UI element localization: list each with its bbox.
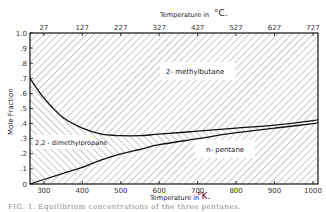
chart-svg: 0.1.2.3.4.5.6.7.8.91.0 30040050060070080… <box>0 0 326 212</box>
y-tick-label: .9 <box>20 45 27 53</box>
region-label-2-2-dimethylpropane: 2,2 - dimethylpropane <box>35 139 107 147</box>
x-tick-label: 1000 <box>304 187 322 195</box>
x2-axis-label: Temperature in <box>159 11 209 19</box>
x-tick-label: 900 <box>268 187 281 195</box>
y-tick-label: .4 <box>20 120 27 128</box>
y-axis-label: Mole Fraction <box>7 88 15 135</box>
x2-tick-label: 227 <box>114 24 127 32</box>
y-tick-label: 1.0 <box>16 30 27 38</box>
x2-tick-label: 727 <box>306 24 319 32</box>
x2-tick-label: 527 <box>229 24 242 32</box>
y-tick-label: .3 <box>20 135 27 143</box>
x-axis-label: Temperature in <box>149 194 199 202</box>
plot-area <box>30 33 318 184</box>
y-tick-label: .8 <box>20 60 27 68</box>
figure-caption: FIG. 1. Equilibrium concentrations of th… <box>8 203 241 211</box>
x2-tick-label: 27 <box>39 24 48 32</box>
y-tick-label: .1 <box>20 165 27 173</box>
x2-tick-label: 327 <box>153 24 166 32</box>
y-tick-label: .2 <box>20 150 27 158</box>
x2-tick-label: 127 <box>76 24 89 32</box>
x-tick-label: 400 <box>76 187 89 195</box>
x-tick-label: 500 <box>114 187 127 195</box>
x2-axis-unit: °C. <box>214 8 228 18</box>
y-tick-label: .5 <box>20 105 27 113</box>
x2-tick-label: 627 <box>268 24 281 32</box>
x-tick-label: 800 <box>229 187 242 195</box>
region-label-n-pentane: n- pentane <box>206 146 244 154</box>
region-label-2-methylbutane: 2- methylbutane <box>166 68 224 76</box>
y-tick-label: .7 <box>20 75 27 83</box>
y-tick-label: 0 <box>23 181 27 189</box>
x-axis-unit: °K. <box>197 191 210 201</box>
x2-tick-label: 427 <box>191 24 204 32</box>
x-tick-label: 300 <box>37 187 50 195</box>
y-tick-label: .6 <box>20 90 27 98</box>
